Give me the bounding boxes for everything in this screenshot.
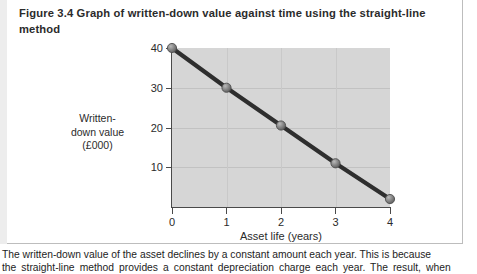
data-point-4 [385, 194, 394, 203]
data-point-0 [167, 43, 176, 52]
data-point-1 [222, 83, 231, 92]
line-chart: 40 30 20 10 0 1 2 3 4 Written- down valu… [0, 0, 463, 244]
data-series-layer [0, 0, 463, 244]
caption-line-2: the straight-line method provides a cons… [2, 261, 472, 274]
caption-line-1: The written-down value of the asset decl… [2, 249, 431, 260]
figure-container: Figure 3.4 Graph of written-down value a… [0, 0, 463, 244]
caption-text: The written-down value of the asset decl… [2, 248, 472, 274]
data-point-2 [276, 121, 285, 130]
data-point-3 [331, 159, 340, 168]
